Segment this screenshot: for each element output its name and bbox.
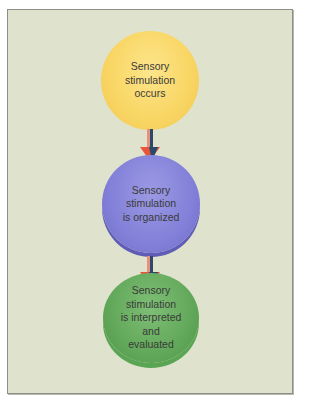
node-label-line: is organized	[123, 211, 180, 225]
node-label-line: stimulation	[123, 197, 180, 211]
node-label-line: stimulation	[121, 298, 182, 312]
node-label-line: Sensory	[121, 284, 182, 298]
node-label-line: occurs	[125, 87, 175, 101]
node-label-line: evaluated	[121, 338, 182, 352]
node-sensory-stimulation-interpreted: Sensory stimulation is interpreted and e…	[103, 273, 199, 363]
node-label-line: stimulation	[125, 74, 175, 88]
node-label-line: and	[121, 325, 182, 339]
node-sensory-stimulation-organized: Sensory stimulation is organized	[102, 155, 200, 253]
node-label-line: Sensory	[125, 60, 175, 74]
node-sensory-stimulation-occurs: Sensory stimulation occurs	[101, 31, 199, 130]
node-label-line: is interpreted	[121, 311, 182, 325]
node-label-line: Sensory	[123, 184, 180, 198]
